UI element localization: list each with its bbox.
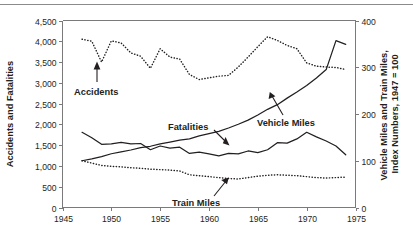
left-axis-title: Accidents and Fatalities bbox=[5, 61, 15, 167]
left-tick-label: 2,000 bbox=[35, 120, 57, 130]
x-tick-label: 1965 bbox=[249, 214, 268, 224]
right-axis-title: Vehicle Miles and Train Miles, Index Num… bbox=[379, 48, 400, 181]
left-tick-label: 3,000 bbox=[35, 79, 57, 89]
train-miles-pointer-line bbox=[214, 181, 226, 196]
left-tick-label: 1,500 bbox=[35, 141, 57, 151]
x-tick-label: 1950 bbox=[102, 214, 121, 224]
right-tick-label: 100 bbox=[362, 157, 377, 167]
right-tick-label: 300 bbox=[362, 63, 377, 73]
right-tick-label: 200 bbox=[362, 110, 377, 120]
x-tick-label: 1975 bbox=[347, 214, 366, 224]
series-label-train-miles: Train Miles bbox=[172, 198, 220, 208]
left-tick-label: 4,500 bbox=[35, 17, 57, 27]
fatalities-pointer-head bbox=[223, 137, 230, 146]
series-label-fatalities: Fatalities bbox=[168, 122, 208, 132]
x-tick-label: 1960 bbox=[200, 214, 219, 224]
vehicle-miles-pointer-line bbox=[272, 96, 283, 115]
left-tick-label: 1,000 bbox=[35, 162, 57, 172]
accidents-pointer-head bbox=[94, 62, 101, 70]
series-path-train-miles bbox=[82, 161, 346, 179]
vehicle-miles-pointer-head bbox=[269, 92, 276, 99]
right-axis-ticks: 0100200300400 bbox=[356, 17, 377, 214]
left-tick-label: 2,500 bbox=[35, 100, 57, 110]
left-tick-label: 3,500 bbox=[35, 58, 57, 68]
left-tick-label: 0 bbox=[52, 204, 57, 214]
x-tick-label: 1955 bbox=[151, 214, 170, 224]
x-axis-ticks: 1945195019551960196519701975 bbox=[54, 208, 366, 224]
right-tick-label: 0 bbox=[362, 204, 367, 214]
series-label-accidents: Accidents bbox=[74, 87, 118, 97]
series-path-fatalities bbox=[82, 132, 346, 156]
x-tick-label: 1970 bbox=[298, 214, 317, 224]
right-tick-label: 400 bbox=[362, 17, 377, 27]
series-path-accidents bbox=[82, 37, 346, 80]
axis-group bbox=[63, 21, 356, 208]
series-label-vehicle-miles: Vehicle Miles bbox=[257, 118, 315, 128]
chart-svg: 05001,0001,5002,0002,5003,0003,5004,0004… bbox=[0, 0, 413, 241]
data-series-group bbox=[82, 37, 346, 179]
left-axis-ticks: 05001,0001,5002,0002,5003,0003,5004,0004… bbox=[35, 17, 63, 214]
chart-figure: 05001,0001,5002,0002,5003,0003,5004,0004… bbox=[0, 0, 413, 241]
x-tick-label: 1945 bbox=[54, 214, 73, 224]
left-tick-label: 500 bbox=[42, 183, 57, 193]
left-tick-label: 4,000 bbox=[35, 37, 57, 47]
